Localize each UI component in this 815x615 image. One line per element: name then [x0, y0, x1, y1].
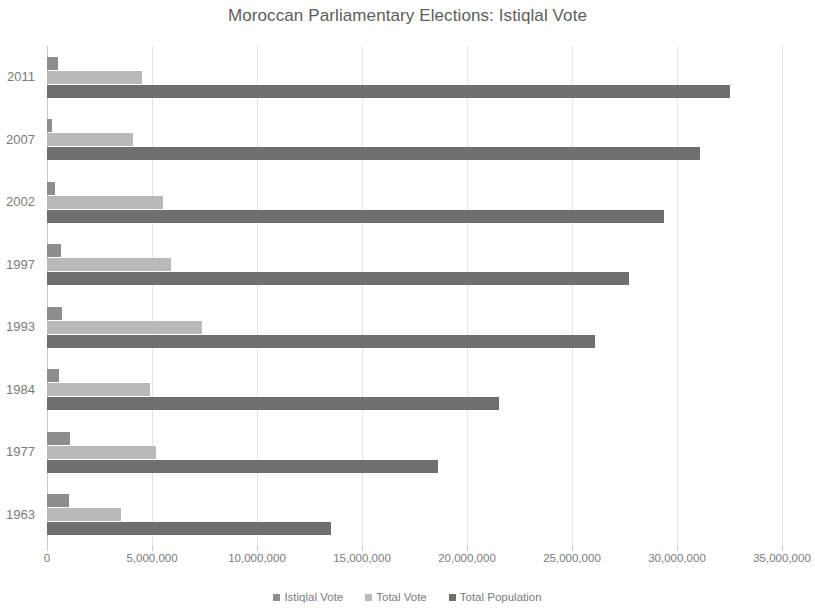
y-axis-label-2007: 2007 — [6, 132, 35, 147]
bar-2007-istiqlal — [47, 119, 52, 132]
legend-item-totalvote[interactable]: Total Vote — [365, 591, 427, 603]
bar-chart: Moroccan Parliamentary Elections: Istiql… — [0, 0, 815, 615]
x-axis-tick — [467, 546, 468, 551]
legend-swatch-icon-istiqlal — [273, 594, 280, 601]
x-axis-label-6: 30,000,000 — [648, 552, 706, 564]
x-axis-label-2: 10,000,000 — [228, 552, 286, 564]
bar-2007-totalvote — [47, 133, 133, 146]
x-axis-label-5: 25,000,000 — [543, 552, 601, 564]
bar-2011-population — [47, 85, 730, 98]
legend-label-population: Total Population — [460, 591, 542, 603]
x-axis-tick — [572, 546, 573, 551]
bar-1963-istiqlal — [47, 494, 69, 507]
bar-1984-population — [47, 397, 499, 410]
x-axis-label-3: 15,000,000 — [333, 552, 391, 564]
y-axis-label-2002: 2002 — [6, 194, 35, 209]
bar-group-2002 — [47, 171, 782, 234]
x-axis-tick — [257, 546, 258, 551]
x-axis: 05,000,00010,000,00015,000,00020,000,000… — [0, 552, 815, 572]
bar-1997-istiqlal — [47, 244, 61, 257]
x-axis-label-0: 0 — [44, 552, 50, 564]
x-axis-label-1: 5,000,000 — [126, 552, 177, 564]
x-axis-tick — [782, 546, 783, 551]
bar-1993-istiqlal — [47, 307, 62, 320]
bar-1984-istiqlal — [47, 369, 59, 382]
y-axis-label-1977: 1977 — [6, 444, 35, 459]
y-axis-label-1993: 1993 — [6, 319, 35, 334]
bar-2002-istiqlal — [47, 182, 55, 195]
bar-1977-totalvote — [47, 446, 156, 459]
bar-2002-population — [47, 210, 664, 223]
bar-2011-istiqlal — [47, 57, 58, 70]
x-axis-label-7: 35,000,000 — [753, 552, 811, 564]
bar-1963-population — [47, 522, 331, 535]
x-axis-tick — [362, 546, 363, 551]
y-axis-label-1997: 1997 — [6, 257, 35, 272]
x-axis-label-4: 20,000,000 — [438, 552, 496, 564]
chart-title: Moroccan Parliamentary Elections: Istiql… — [0, 6, 815, 26]
bar-1977-istiqlal — [47, 432, 70, 445]
gridline — [782, 46, 783, 546]
legend-item-istiqlal[interactable]: Istiqlal Vote — [273, 591, 343, 603]
bar-group-1997 — [47, 234, 782, 297]
bar-group-2007 — [47, 109, 782, 172]
bar-1997-population — [47, 272, 629, 285]
legend-label-totalvote: Total Vote — [376, 591, 427, 603]
y-axis-label-1984: 1984 — [6, 382, 35, 397]
legend-swatch-icon-totalvote — [365, 594, 372, 601]
bar-group-1977 — [47, 421, 782, 484]
y-axis: 20112007200219971993198419771963 — [0, 46, 43, 546]
bar-2007-population — [47, 147, 700, 160]
bar-1984-totalvote — [47, 383, 150, 396]
x-axis-tick — [152, 546, 153, 551]
bar-1997-totalvote — [47, 258, 171, 271]
chart-legend: Istiqlal VoteTotal VoteTotal Population — [0, 591, 815, 603]
bar-1993-population — [47, 335, 595, 348]
bar-1963-totalvote — [47, 508, 121, 521]
plot-area — [47, 46, 782, 546]
bar-2002-totalvote — [47, 196, 163, 209]
bar-1993-totalvote — [47, 321, 202, 334]
bar-2011-totalvote — [47, 71, 142, 84]
bar-group-1984 — [47, 359, 782, 422]
legend-item-population[interactable]: Total Population — [449, 591, 542, 603]
x-axis-tick — [47, 546, 48, 551]
y-axis-label-2011: 2011 — [7, 69, 35, 84]
legend-label-istiqlal: Istiqlal Vote — [284, 591, 343, 603]
x-axis-tick — [677, 546, 678, 551]
bar-group-1963 — [47, 484, 782, 547]
bar-group-1993 — [47, 296, 782, 359]
bar-group-2011 — [47, 46, 782, 109]
legend-swatch-icon-population — [449, 594, 456, 601]
bar-1977-population — [47, 460, 438, 473]
y-axis-label-1963: 1963 — [6, 507, 35, 522]
